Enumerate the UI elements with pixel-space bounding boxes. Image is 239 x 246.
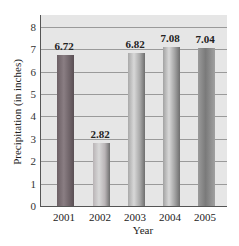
x-axis-label: Year [113, 224, 173, 236]
bar-2005 [198, 48, 215, 206]
bar-2002 [93, 143, 110, 206]
y-tick-label: 8 [26, 22, 36, 33]
y-tick-label: 7 [26, 44, 36, 55]
y-axis-label: Precipitation (in inches) [11, 57, 23, 167]
x-tick-label: 2005 [188, 211, 222, 223]
bar-2003 [128, 53, 145, 206]
y-tick-label: 1 [26, 179, 36, 190]
x-tick-label: 2003 [118, 211, 152, 223]
bar-2001 [57, 55, 74, 206]
x-tick-label: 2001 [47, 211, 81, 223]
y-tick-label: 6 [26, 67, 36, 78]
y-tick-label: 2 [26, 156, 36, 167]
gridline [41, 27, 227, 28]
y-tick-label: 3 [26, 134, 36, 145]
bar-2004 [163, 47, 180, 206]
bar-value-label: 7.08 [150, 33, 190, 44]
y-tick-label: 4 [26, 111, 36, 122]
x-tick-label: 2002 [83, 211, 117, 223]
y-tick-label: 0 [26, 201, 36, 212]
y-tick-label: 5 [26, 89, 36, 100]
bar-value-label: 2.82 [80, 129, 120, 140]
bar-value-label: 6.72 [44, 41, 84, 52]
bar-value-label: 6.82 [115, 39, 155, 50]
bar-value-label: 7.04 [185, 34, 225, 45]
x-tick-label: 2004 [153, 211, 187, 223]
